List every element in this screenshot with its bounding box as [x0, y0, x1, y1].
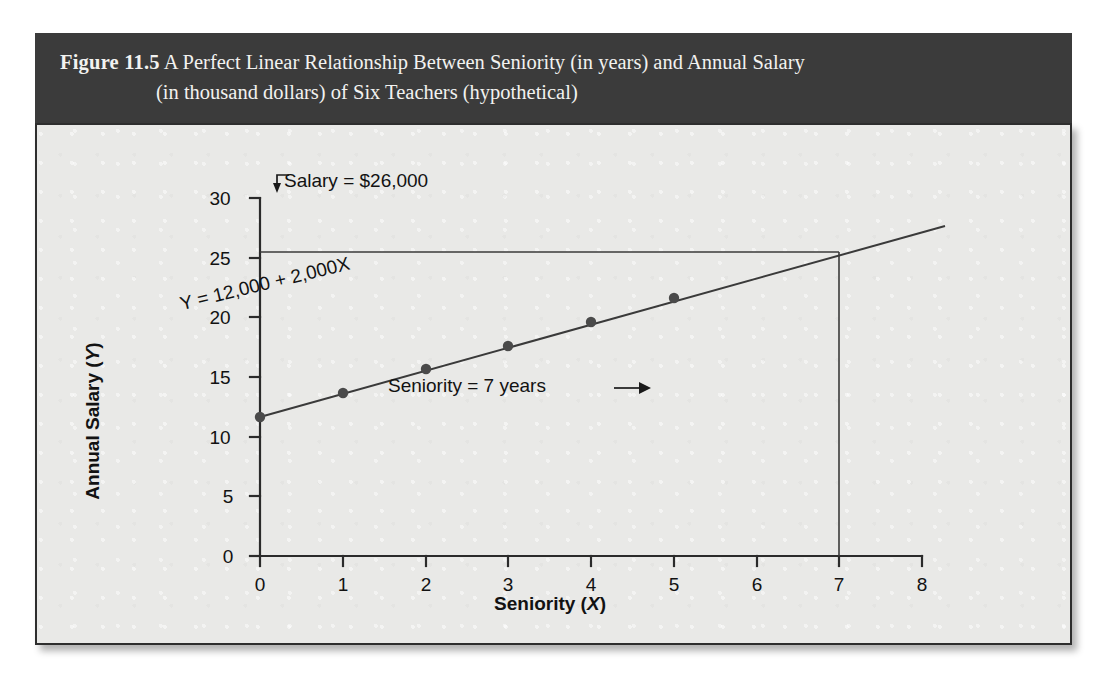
y-axis-title: Annual Salary (Y): [82, 306, 104, 536]
y-tick-label: 30: [203, 188, 237, 210]
data-point: [503, 341, 513, 351]
data-point: [421, 364, 431, 374]
x-axis-title: Seniority (X): [385, 593, 715, 615]
x-tick-label: 0: [243, 574, 277, 596]
data-point: [669, 293, 679, 303]
figure-card: Figure 11.5 A Perfect Linear Relationshi…: [35, 33, 1072, 645]
y-tick-label: 25: [203, 248, 237, 270]
figure-panel: 0 5 10 15 20 25 30 0 1 2 3 4 5 6 7 8 Ann…: [35, 123, 1072, 645]
figure-screenshot: Figure 11.5 A Perfect Linear Relationshi…: [0, 0, 1107, 694]
figure-number: Figure 11.5: [60, 51, 160, 73]
seniority-arrow-head: [639, 382, 651, 394]
plot-canvas: [37, 125, 1074, 647]
y-tick-label: 5: [211, 486, 245, 508]
y-tick-label: 0: [211, 546, 245, 568]
data-point: [338, 388, 348, 398]
figure-caption-line2: (in thousand dollars) of Six Teachers (h…: [156, 77, 1048, 107]
figure-header-text: Figure 11.5 A Perfect Linear Relationshi…: [60, 47, 1048, 107]
figure-caption-line1: A Perfect Linear Relationship Between Se…: [164, 51, 805, 73]
x-tick-label: 1: [326, 574, 360, 596]
y-tick-label: 20: [203, 307, 237, 329]
data-point: [255, 412, 265, 422]
salary-annotation: Salary = $26,000: [284, 170, 428, 192]
y-tick-label: 10: [203, 427, 237, 449]
x-tick-label: 6: [740, 574, 774, 596]
salary-arrow-head: [273, 183, 281, 193]
x-tick-label: 8: [905, 574, 939, 596]
x-tick-label: 7: [822, 574, 856, 596]
data-point: [586, 317, 596, 327]
y-tick-label: 15: [203, 367, 237, 389]
seniority-annotation: Seniority = 7 years: [388, 375, 546, 397]
figure-header-bar: Figure 11.5 A Perfect Linear Relationshi…: [35, 33, 1072, 123]
data-points: [255, 293, 679, 422]
plot-area: 0 5 10 15 20 25 30 0 1 2 3 4 5 6 7 8 Ann…: [37, 125, 1074, 647]
regression-line: [260, 226, 945, 417]
